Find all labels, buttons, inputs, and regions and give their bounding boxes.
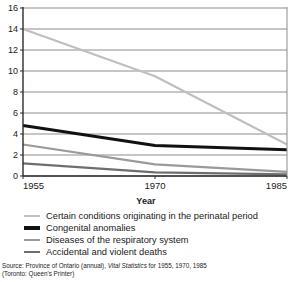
legend-label-accidental: Accidental and violent deaths xyxy=(46,247,167,258)
legend-label-respiratory: Diseases of the respiratory system xyxy=(46,235,189,246)
legend-swatch-congenital xyxy=(24,226,40,229)
source-note: Source: Province of Ontario (annual), Vi… xyxy=(2,262,292,278)
legend-swatch-accidental xyxy=(24,251,40,253)
series-line-1 xyxy=(23,126,287,150)
x-tick-label: 1970 xyxy=(144,180,165,191)
source-line-1: Source: Province of Ontario (annual), Vi… xyxy=(2,262,292,270)
y-tick-label: 12 xyxy=(8,45,18,55)
legend-label-perinatal: Certain conditions originating in the pe… xyxy=(46,211,258,222)
legend-swatch-respiratory xyxy=(24,239,40,241)
y-tick-label: 4 xyxy=(13,129,18,139)
legend-swatch-perinatal xyxy=(24,215,40,217)
line-chart-svg: 0246810121416195519701985 xyxy=(0,0,292,192)
x-axis-title: Year xyxy=(0,196,292,206)
legend-item-respiratory: Diseases of the respiratory system xyxy=(24,234,292,246)
series-line-0 xyxy=(23,29,287,145)
source-line-2: (Toronto: Queen's Printer) xyxy=(2,270,292,278)
y-tick-label: 2 xyxy=(13,150,18,160)
legend-item-congenital: Congenital anomalies xyxy=(24,222,292,234)
x-tick-label: 1985 xyxy=(266,180,287,191)
y-tick-label: 16 xyxy=(8,3,18,13)
source-prefix: Source: Province of Ontario (annual), xyxy=(2,262,108,269)
chart-plot-area: 0246810121416195519701985 xyxy=(0,0,292,192)
chart-legend: Certain conditions originating in the pe… xyxy=(24,210,292,258)
legend-label-congenital: Congenital anomalies xyxy=(46,223,135,234)
y-tick-label: 10 xyxy=(8,66,18,76)
legend-item-perinatal: Certain conditions originating in the pe… xyxy=(24,210,292,222)
legend-item-accidental: Accidental and violent deaths xyxy=(24,246,292,258)
source-suffix: for 1955, 1970, 1985 xyxy=(147,262,207,269)
y-tick-label: 0 xyxy=(13,171,18,181)
y-tick-label: 6 xyxy=(13,108,18,118)
y-tick-label: 8 xyxy=(13,87,18,97)
x-tick-label: 1955 xyxy=(23,180,44,191)
y-tick-label: 14 xyxy=(8,24,18,34)
source-publication-title: Vital Statistics xyxy=(108,262,147,269)
figure: 0246810121416195519701985 Year Certain c… xyxy=(0,0,292,282)
